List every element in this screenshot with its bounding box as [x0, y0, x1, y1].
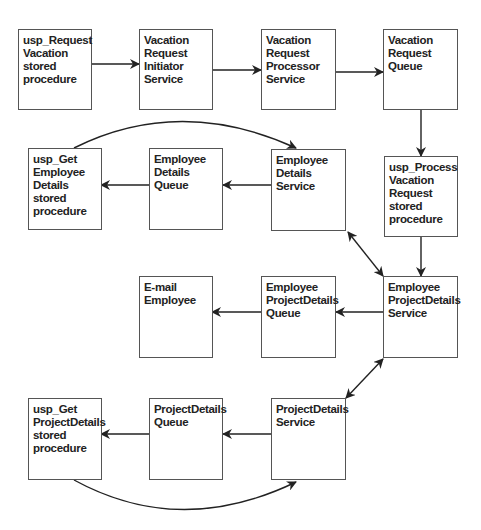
node-email-employee: E-mail Employee — [139, 276, 213, 358]
edge-usp-get-ed-to-eds — [74, 122, 296, 149]
node-employee-projectdetails-service: Employee ProjectDetails Service — [383, 276, 458, 358]
node-usp-process-vacation-request: usp_Process Vacation Request stored proc… — [384, 156, 458, 237]
node-employee-details-queue: Employee Details Queue — [149, 148, 223, 230]
node-projectdetails-queue: ProjectDetails Queue — [149, 398, 223, 480]
node-usp-get-employee-details: usp_Get Employee Details stored procedur… — [28, 148, 102, 230]
node-usp-get-projectdetails: usp_Get ProjectDetails stored procedure — [28, 398, 102, 480]
node-vacation-request-initiator-service: Vacation Request Initiator Service — [139, 29, 213, 110]
node-employee-projectdetails-queue: Employee ProjectDetails Queue — [261, 276, 336, 358]
edge-epd-service-projectdetails-service — [346, 359, 383, 398]
node-employee-details-service: Employee Details Service — [271, 149, 346, 231]
node-vacation-request-processor-service: Vacation Request Processor Service — [261, 29, 336, 110]
edge-epd-service-employee-details-service — [348, 232, 383, 276]
node-usp-request-vacation: usp_Request Vacation stored procedure — [18, 29, 92, 110]
node-projectdetails-service: ProjectDetails Service — [271, 398, 346, 480]
node-vacation-request-queue: Vacation Request Queue — [383, 29, 458, 110]
edge-usp-get-pd-to-pds — [74, 480, 296, 510]
